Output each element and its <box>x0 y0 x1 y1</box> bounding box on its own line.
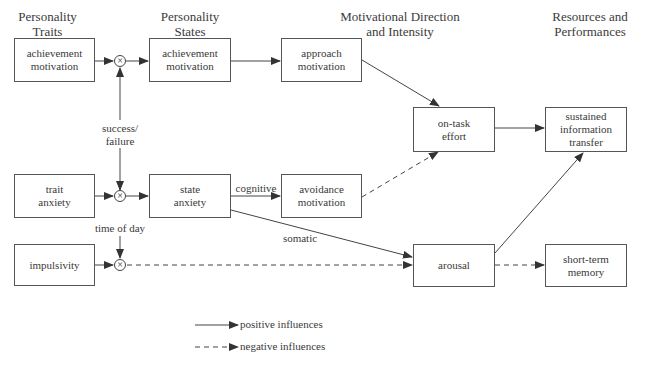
box-label: impulsivity <box>29 259 79 272</box>
header-motivational-direction: Motivational Direction and Intensity <box>330 9 470 39</box>
box-label: achievement motivation <box>150 47 230 73</box>
box-label: trait anxiety <box>35 183 75 209</box>
label-somatic: somatic <box>280 232 320 245</box>
box-label: achievement motivation <box>15 47 94 73</box>
arrow-approach-to-effort <box>362 60 439 106</box>
header-resources-performances: Resources and Performances <box>535 9 645 39</box>
arrow-arousal-to-sustained <box>495 153 583 253</box>
box-label: short-term memory <box>558 253 614 279</box>
box-arousal: arousal <box>413 244 495 287</box>
multiply-node-anxiety: × <box>114 190 126 202</box>
box-sustained-information-transfer: sustained information transfer <box>545 107 627 152</box>
box-short-term-memory: short-term memory <box>545 244 627 287</box>
legend-positive-label: positive influences <box>240 318 323 331</box>
box-state-achievement-motivation: achievement motivation <box>149 38 231 82</box>
box-trait-achievement-motivation: achievement motivation <box>14 38 95 82</box>
box-label: sustained information transfer <box>555 110 617 149</box>
box-state-anxiety: state anxiety <box>149 174 231 218</box>
box-label: state anxiety <box>170 183 210 209</box>
box-label: approach motivation <box>282 47 361 73</box>
box-approach-motivation: approach motivation <box>281 38 362 82</box>
box-label: on-task effort <box>429 117 479 143</box>
legend-negative-label: negative influences <box>240 340 325 353</box>
label-success-failure: success/ failure <box>95 122 145 148</box>
header-personality-traits: Personality Traits <box>0 9 95 39</box>
box-label: avoidance motivation <box>294 183 349 209</box>
label-time-of-day: time of day <box>92 222 148 235</box>
multiply-node-impulsivity: × <box>114 259 126 271</box>
arrow-avoidance-to-effort <box>362 152 438 197</box>
box-trait-anxiety: trait anxiety <box>14 174 95 218</box>
box-on-task-effort: on-task effort <box>413 107 495 152</box>
header-personality-states: Personality States <box>140 9 240 39</box>
multiply-node-achievement: × <box>114 55 126 67</box>
box-label: arousal <box>438 259 470 272</box>
box-impulsivity: impulsivity <box>14 244 95 286</box>
box-avoidance-motivation: avoidance motivation <box>281 174 362 218</box>
label-cognitive: cognitive <box>234 182 278 195</box>
